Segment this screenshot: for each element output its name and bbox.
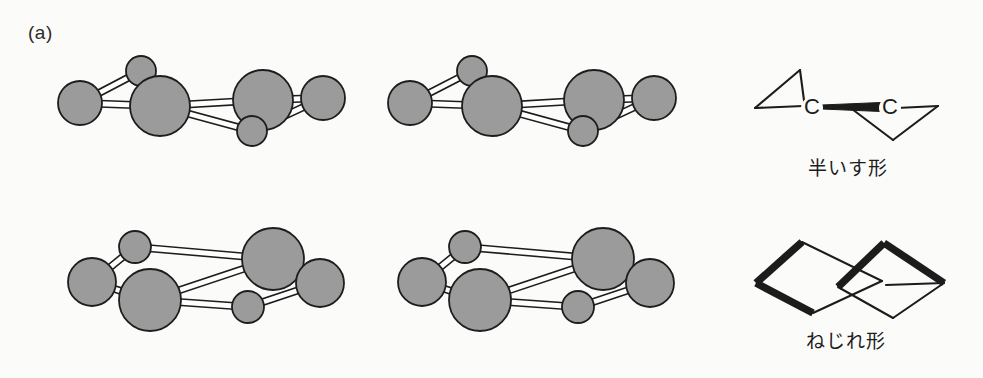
atom-sphere	[462, 76, 522, 136]
thin-bond-line	[893, 283, 944, 318]
atom-sphere	[301, 76, 345, 120]
thin-bond-line	[755, 106, 803, 108]
atom-sphere	[68, 258, 116, 306]
atom-label-carbon: C	[804, 94, 820, 119]
figure-panel-a: (a) CC 半いす形 ねじれ形	[0, 0, 983, 378]
atom-sphere	[568, 116, 598, 146]
atom-sphere	[130, 76, 190, 136]
atom-sphere	[626, 259, 674, 307]
atom-sphere	[237, 116, 267, 146]
thin-bond-line	[897, 106, 938, 108]
atom-label-carbon: C	[882, 94, 898, 119]
atom-sphere	[296, 259, 344, 307]
ball-stick-model-twist-left-eye	[68, 228, 344, 331]
bold-bond-line	[756, 242, 802, 283]
atom-sphere	[449, 231, 481, 263]
atom-sphere	[119, 269, 181, 331]
line-diagram-half-chair: CC	[755, 70, 938, 140]
atom-sphere	[449, 269, 511, 331]
atom-sphere	[388, 81, 432, 125]
atom-sphere	[242, 228, 304, 290]
atom-sphere	[232, 291, 264, 323]
molecular-conformation-artwork: CC	[0, 0, 983, 378]
conformation-row-half-chair: CC	[58, 56, 938, 146]
bold-bond-line	[884, 243, 944, 283]
ball-stick-model-half-chair-left-eye	[58, 56, 345, 146]
atom-sphere	[119, 231, 151, 263]
thin-bond-line	[886, 283, 944, 285]
ball-stick-model-twist-right-eye	[398, 228, 674, 331]
thin-bond-line	[755, 70, 800, 108]
thin-bond-line	[838, 287, 893, 318]
thin-bond-line	[813, 281, 882, 313]
atom-sphere	[562, 291, 594, 323]
ball-stick-model-half-chair-right-eye	[388, 56, 676, 146]
caption-half-chair: 半いす形	[808, 153, 888, 180]
atom-sphere	[58, 81, 102, 125]
atom-sphere	[632, 76, 676, 120]
bold-bond-line	[838, 243, 884, 287]
line-diagram-twist	[756, 242, 944, 318]
wedge-bond	[822, 103, 881, 112]
bold-bond-line	[756, 283, 813, 313]
conformation-row-twist	[68, 228, 944, 331]
atom-sphere	[398, 258, 446, 306]
caption-twist: ねじれ形	[806, 326, 886, 353]
atom-sphere	[572, 228, 634, 290]
